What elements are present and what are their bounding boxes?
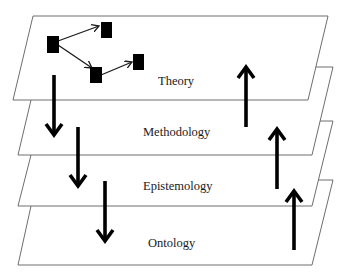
graph-node-3 [90,67,102,83]
graph-node-1 [47,36,59,53]
layer-theory: Theory [13,16,328,100]
ontology-label: Ontology [148,236,196,250]
methodology-label: Methodology [143,125,211,139]
graph-node-2 [101,22,112,38]
layered-diagram: Ontology Epistemology Methodology Theory [0,0,348,278]
theory-label: Theory [158,74,195,88]
epistemology-label: Epistemology [143,179,213,193]
graph-node-4 [133,54,144,70]
